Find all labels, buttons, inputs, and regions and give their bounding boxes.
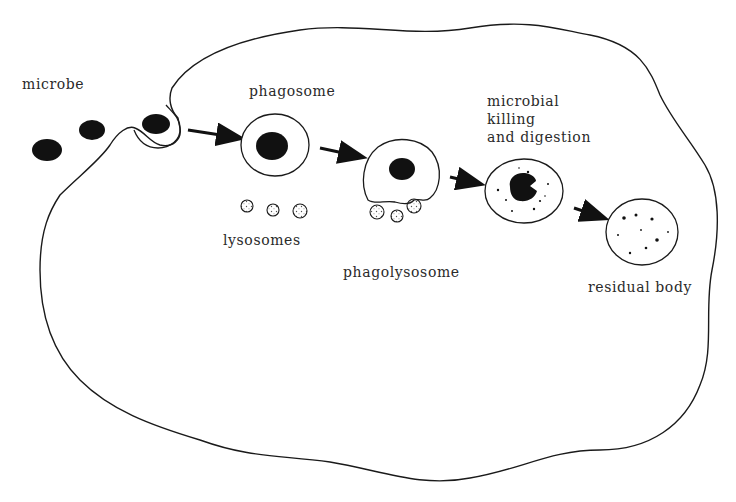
arrow-1-icon — [188, 130, 240, 138]
fusing-lysosome-1 — [370, 205, 384, 219]
fusing-lysosome-3 — [407, 199, 421, 213]
lysosome-2 — [267, 204, 279, 216]
fusing-lysosome-2 — [391, 210, 403, 222]
arrow-3-icon — [450, 177, 480, 184]
label-microbe: microbe — [22, 77, 84, 92]
arrow-4-icon — [574, 208, 604, 218]
lysosome-3 — [293, 204, 307, 218]
label-residual-body: residual body — [588, 280, 692, 295]
microbe-3 — [142, 114, 170, 134]
label-phagosome: phagosome — [249, 84, 335, 99]
lysosome-1 — [241, 200, 253, 212]
phagosome-microbe — [256, 132, 288, 160]
label-phagolysosome: phagolysosome — [343, 265, 460, 280]
phagolysosome-microbe — [389, 158, 415, 180]
diagram-canvas — [0, 0, 736, 502]
phagocytosis-diagram: microbe phagosome lysosomes phagolysosom… — [0, 0, 736, 502]
label-killing-line3: and digestion — [487, 130, 591, 145]
microbe-1 — [32, 139, 62, 161]
label-lysosomes: lysosomes — [223, 233, 301, 248]
label-killing-line2: killing — [487, 112, 536, 127]
label-killing-line1: microbial — [487, 94, 559, 109]
microbe-2 — [79, 120, 105, 140]
arrow-2-icon — [320, 148, 362, 157]
